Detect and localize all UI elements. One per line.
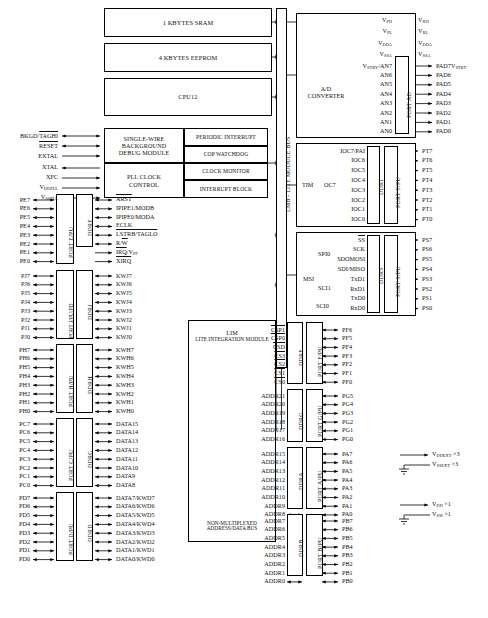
block-cpu12: CPU12 <box>104 78 272 116</box>
serial-signal-5: RxD1 <box>350 286 365 292</box>
debug-pin-1: RESET <box>39 143 58 149</box>
portf-pin-1: PF5 <box>342 335 352 341</box>
ddre-text: DDRE <box>87 219 93 236</box>
porta-pin-1: PA6 <box>342 459 352 465</box>
tim-signal-4: IOC3 <box>351 187 365 193</box>
cop-watchdog-label: COP WATCHDOG <box>204 151 249 157</box>
porth-pin-1: PH6 <box>19 355 30 361</box>
porta-signal-6: ADDR9 <box>264 503 285 509</box>
portf-pin-2: PF4 <box>342 344 352 350</box>
ddre-label: DDRE <box>87 219 93 236</box>
portc-signal-0: DATA15 <box>116 421 138 427</box>
portj-signal-5: KWJ2 <box>116 317 132 323</box>
ddra-text: DDRA <box>298 472 304 490</box>
block-eerpom: 4 KBYTES EEPROM <box>104 43 272 72</box>
power-supply-1: VDD ×1 <box>432 501 451 508</box>
porth-pin-2: PH5 <box>19 364 30 370</box>
sci1-text: SCI1 <box>318 284 331 291</box>
porth-pin-0: PH7 <box>19 347 30 353</box>
portd-pin-1: PD6 <box>19 503 30 509</box>
block-sram: 1 KBYTES SRAM <box>104 8 272 37</box>
pll-pin-2: VDDPLL <box>39 184 58 191</box>
portf-pin-3: PF3 <box>342 353 352 359</box>
tim-pin-3: PT4 <box>422 177 432 183</box>
portc-pin-5: PC2 <box>19 465 30 471</box>
port-t-text: PORT T/PU <box>395 177 401 208</box>
portj-signal-0: KWJ7 <box>116 273 132 279</box>
clock-monitor-label: CLOCK MONITOR <box>202 168 250 174</box>
adc-ref-inner-1: VPL <box>382 28 392 35</box>
portf-signal-4: CS2 <box>274 361 285 367</box>
port-a-text: PORT A/PU <box>317 470 323 502</box>
portf-pin-4: PF2 <box>342 361 352 367</box>
tim-title-text: TIM <box>302 181 313 188</box>
serial-pin-0: PS7 <box>422 237 432 243</box>
portc-pin-1: PC6 <box>19 429 30 435</box>
porth-signal-2: KWH5 <box>116 364 134 370</box>
pll-line2: CONTROL <box>129 181 159 188</box>
portg-signal-5: ADDR16 <box>261 436 285 442</box>
portj-signal-1: KWJ6 <box>116 281 132 287</box>
serial-pin-2: PS5 <box>422 256 432 262</box>
portj-signal-7: KWJ0 <box>116 334 132 340</box>
ddrg-label: DDRG <box>298 412 304 430</box>
tim-pin-4: PT3 <box>422 187 432 193</box>
portd-signal-5: DATA2/KWD2 <box>116 539 155 545</box>
portb-pin-4: PB3 <box>342 552 353 558</box>
portg-signal-2: ADDR19 <box>261 410 285 416</box>
portb-signal-3: ADDR4 <box>264 544 285 550</box>
adc-pad-4: PAD3 <box>436 100 451 106</box>
port-d-label: PORT D/PU <box>68 523 74 555</box>
msi-label: MSI <box>303 276 314 282</box>
portc-pin-0: PC7 <box>19 421 30 427</box>
ddrh-text: DDRH <box>87 376 93 394</box>
porte-signal-2: IPIPE0/MODA <box>116 214 155 220</box>
lmb-bus-label: LMB - LITE MODULE BUS <box>285 136 291 212</box>
portd-signal-2: DATA5/KWD5 <box>116 512 155 518</box>
lim-note-line2: ADDRESS/DATA BUS <box>189 526 275 531</box>
port-ad-label: PORT AD <box>406 92 412 118</box>
portj-pin-4: PJ3 <box>21 308 30 314</box>
adc-channel-0: VSTBY/AN7 <box>363 63 392 70</box>
portd-pin-7: PD0 <box>19 556 30 562</box>
porta-pin-2: PA5 <box>342 468 352 474</box>
portg-pin-5: PG0 <box>342 436 353 442</box>
periodic-interrupt-label: PERIODIC INTERRUPT <box>196 134 256 140</box>
adc-ref-inner-3: VSSA <box>379 51 392 58</box>
port-f-label: PORT F/PU <box>317 346 323 377</box>
lim-note: NON-MULTIPLEXED ADDRESS/DATA BUS <box>189 521 275 532</box>
porth-signal-1: KWH6 <box>116 355 134 361</box>
spi0-text: SPI0 <box>318 250 330 257</box>
lim-title-line2: LITE INTEGRATION MODULE <box>190 337 274 342</box>
cpu12-label: CPU12 <box>178 93 197 100</box>
portg-signal-3: ADDR18 <box>261 419 285 425</box>
porte-signal-6: IRQ/VPP <box>116 249 138 256</box>
tim-pin-2: PT5 <box>422 167 432 173</box>
tim-signal-3: IOC4 <box>351 177 365 183</box>
portf-signal-6: CS0 <box>274 379 285 385</box>
portd-signal-7: DATA0/KWD0 <box>116 556 155 562</box>
portf-signal-2: CSD <box>273 344 285 350</box>
adc-title-line2: CONVERTER <box>300 93 352 99</box>
port-j-label: PORT J/PU/PD <box>68 303 74 338</box>
serial-pin-6: PS1 <box>422 295 432 301</box>
port-e-label: PORT E/PU <box>68 227 74 258</box>
adc-pad-5: PAD2 <box>436 110 451 116</box>
portj-pin-1: PJ6 <box>21 281 30 287</box>
port-d-text: PORT D/PU <box>68 523 74 555</box>
block-periodic-interrupt: PERIODIC INTERRUPT <box>184 128 268 146</box>
ddrh-label: DDRH <box>87 376 93 394</box>
block-diagram-canvas: 1 KBYTES SRAM 4 KBYTES EEPROM CPU12 SING… <box>0 0 488 618</box>
portb-pin-5: PB2 <box>342 561 353 567</box>
portg-pin-0: PG5 <box>342 393 353 399</box>
portb-pin-3: PB4 <box>342 544 353 550</box>
power-supply-0: VDDEXT ×3 <box>432 451 460 458</box>
interrupt-block-label: INTERRUPT BLOCK <box>200 186 253 192</box>
tim-pin-5: PT2 <box>422 197 432 203</box>
adc-channel-6: AN1 <box>380 119 392 125</box>
portc-signal-6: DATA9 <box>116 473 135 479</box>
portc-signal-4: DATA11 <box>116 456 138 462</box>
porte-signal-3: ECLK <box>116 222 132 228</box>
block-clock-monitor: CLOCK MONITOR <box>184 163 268 180</box>
port-e-text: PORT E/PU <box>68 227 74 258</box>
